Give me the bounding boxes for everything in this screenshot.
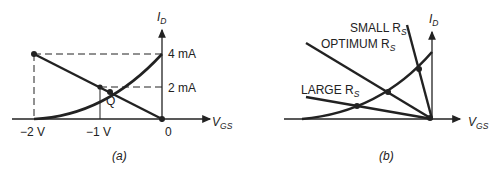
tick-2ma: 2 mA	[168, 81, 196, 95]
point-origin	[159, 116, 165, 122]
panel-b: ID SMALL RS OPTIMUM RS LARGE RS VGS (b)	[284, 12, 489, 163]
svg-text:VGS: VGS	[468, 115, 489, 131]
small-rs-label: SMALL RS	[350, 21, 407, 37]
panel-a: ID 4 mA 2 mA Q VGS −2 V −1 V 0 (a)	[12, 10, 233, 163]
svg-text:ID: ID	[429, 12, 438, 28]
point-origin-b	[427, 115, 433, 121]
svg-text:ID: ID	[157, 10, 166, 26]
caption-b: (b)	[379, 149, 394, 163]
point-optimum	[385, 89, 391, 95]
tick-zero: 0	[165, 125, 172, 139]
svg-text:VGS: VGS	[212, 115, 233, 131]
caption-a: (a)	[112, 149, 127, 163]
point-minus1v	[97, 84, 102, 89]
tick-4ma: 4 mA	[168, 47, 196, 61]
tick-minus1v: −1 V	[86, 125, 111, 139]
jfet-bias-diagram: ID 4 mA 2 mA Q VGS −2 V −1 V 0 (a) ID SM…	[0, 0, 496, 170]
point-large	[354, 103, 360, 109]
large-rs-label: LARGE RS	[301, 83, 360, 99]
point-small	[416, 66, 422, 72]
optimum-rs-label: OPTIMUM RS	[321, 37, 396, 53]
tick-minus2v: −2 V	[20, 125, 45, 139]
q-label: Q	[106, 94, 115, 108]
point-idss	[31, 51, 37, 57]
